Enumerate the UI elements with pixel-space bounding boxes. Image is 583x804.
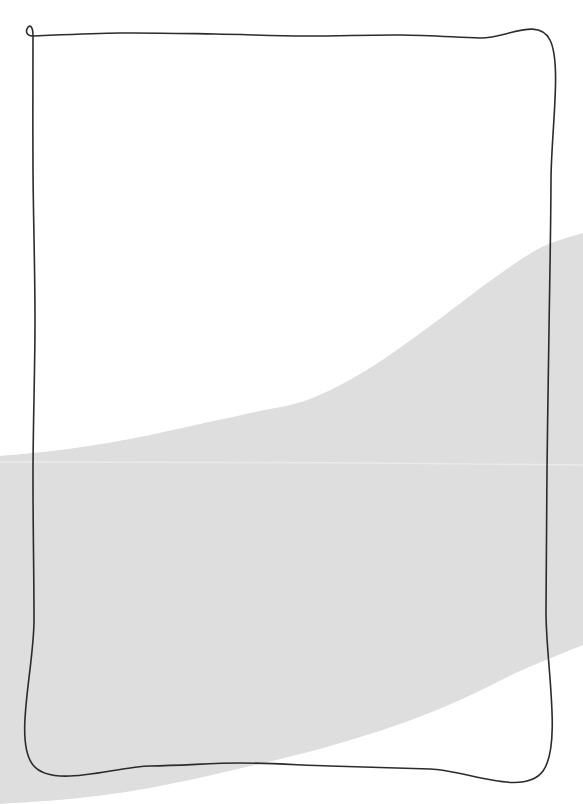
artboard bbox=[0, 0, 583, 804]
scene-canvas bbox=[0, 0, 583, 804]
